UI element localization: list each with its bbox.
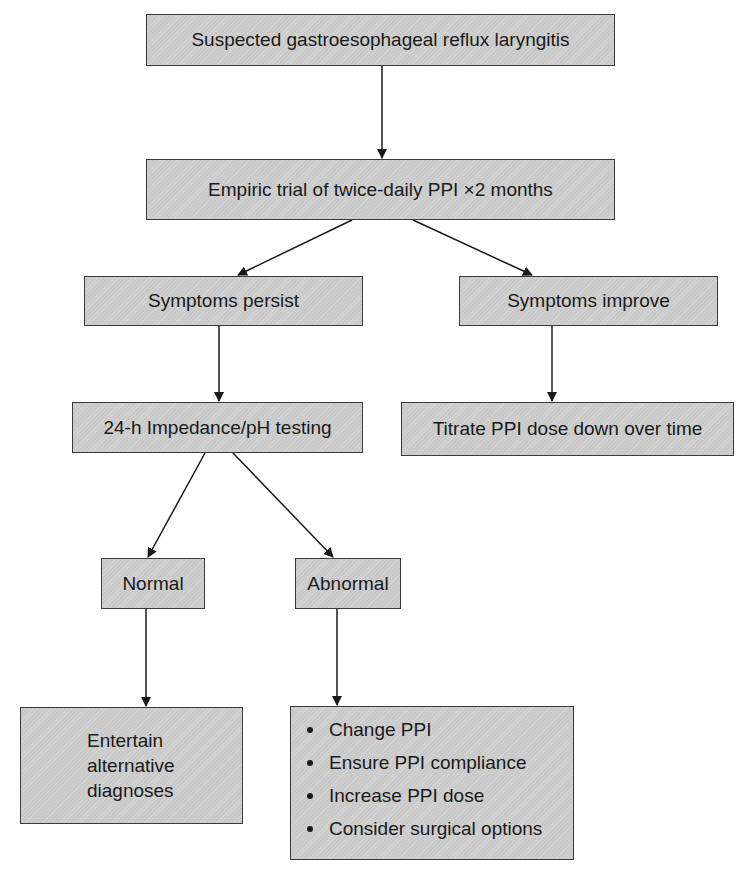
node-symptoms-persist: Symptoms persist [84, 276, 363, 326]
node-label-line: Entertain [87, 728, 175, 753]
action-list: Change PPI Ensure PPI compliance Increas… [291, 707, 542, 845]
node-label-line: diagnoses [87, 778, 175, 803]
node-label: Abnormal [307, 573, 388, 595]
node-label: Titrate PPI dose down over time [433, 418, 703, 440]
node-label: Suspected gastroesophageal reflux laryng… [191, 29, 569, 51]
node-entertain-alternative-diagnoses: Entertain alternative diagnoses [20, 707, 243, 824]
action-item-label: Increase PPI dose [329, 779, 484, 812]
arrow-testing-to-normal [148, 453, 205, 557]
node-abnormal-result: Abnormal [295, 558, 401, 609]
arrow-trial-to-persist [238, 220, 352, 275]
action-item: Consider surgical options [307, 812, 542, 845]
action-item-label: Consider surgical options [329, 812, 542, 845]
node-impedance-ph-testing: 24-h Impedance/pH testing [72, 402, 363, 453]
bullet-icon [307, 826, 313, 832]
node-label: Symptoms improve [507, 290, 670, 312]
arrow-testing-to-abnormal [233, 453, 333, 557]
node-suspected-reflux-laryngitis: Suspected gastroesophageal reflux laryng… [146, 14, 615, 66]
node-abnormal-actions: Change PPI Ensure PPI compliance Increas… [290, 706, 574, 860]
node-label: Symptoms persist [148, 290, 299, 312]
bullet-icon [307, 793, 313, 799]
action-item-label: Ensure PPI compliance [329, 746, 527, 779]
node-symptoms-improve: Symptoms improve [459, 276, 718, 326]
action-item-label: Change PPI [329, 713, 431, 746]
node-label: Normal [122, 573, 183, 595]
node-normal-result: Normal [101, 558, 205, 609]
arrow-trial-to-improve [413, 220, 532, 275]
action-item: Ensure PPI compliance [307, 746, 542, 779]
node-titrate-ppi-dose: Titrate PPI dose down over time [401, 402, 734, 456]
node-empiric-ppi-trial: Empiric trial of twice-daily PPI ×2 mont… [146, 159, 615, 220]
bullet-icon [307, 760, 313, 766]
node-multiline-label: Entertain alternative diagnoses [21, 728, 175, 803]
node-label: 24-h Impedance/pH testing [103, 417, 331, 439]
action-item: Change PPI [307, 713, 542, 746]
node-label: Empiric trial of twice-daily PPI ×2 mont… [208, 179, 553, 201]
action-item: Increase PPI dose [307, 779, 542, 812]
bullet-icon [307, 727, 313, 733]
node-label-line: alternative [87, 753, 175, 778]
